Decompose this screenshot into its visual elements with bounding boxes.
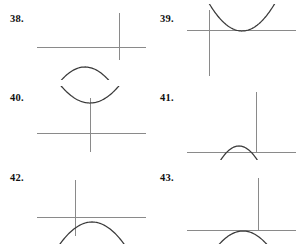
exercise-page: 38.39.40.41.42.43.	[0, 0, 300, 246]
problem-number-label: 43.	[160, 172, 174, 183]
problem-5: 43.	[0, 0, 300, 246]
parabola-graph	[183, 166, 298, 244]
parabola-curve	[192, 231, 293, 244]
